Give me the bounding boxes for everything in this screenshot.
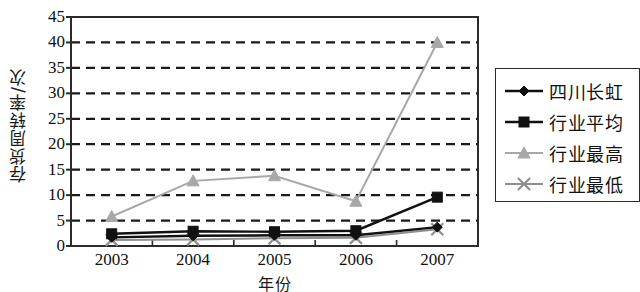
square-marker-icon — [503, 112, 545, 132]
x-tick-label: 2003 — [95, 250, 129, 270]
diamond-marker-icon — [432, 222, 442, 232]
chart-legend: 四川长虹行业平均行业最高行业最低 — [495, 68, 640, 202]
legend-marker — [503, 112, 545, 132]
legend-item-3[interactable]: 行业最高 — [503, 137, 639, 168]
legend-item-label: 行业最高 — [549, 140, 623, 166]
legend-item-label: 行业最低 — [549, 171, 623, 197]
x-tick-label: 2006 — [339, 250, 373, 270]
triangle-marker-icon — [106, 210, 118, 221]
gridlines — [71, 42, 478, 220]
triangle-marker-icon — [503, 143, 545, 163]
square-marker-icon — [432, 192, 442, 202]
legend-item-4[interactable]: 行业最低 — [503, 168, 639, 199]
x-tick-label: 2007 — [420, 250, 454, 270]
x-tick-label: 2004 — [176, 250, 210, 270]
x-tick-label: 2005 — [258, 250, 292, 270]
legend-item-label: 行业平均 — [549, 109, 623, 135]
diamond-marker-icon — [503, 81, 545, 101]
diamond-marker-icon — [519, 86, 529, 96]
legend-item-2[interactable]: 行业平均 — [503, 106, 639, 137]
legend-item-1[interactable]: 四川长虹 — [503, 75, 639, 106]
series-3 — [106, 36, 444, 221]
legend-marker — [503, 143, 545, 163]
legend-marker — [503, 81, 545, 101]
x-axis-title-label: 年份 — [258, 271, 292, 292]
cross-marker-icon — [503, 174, 545, 194]
legend-item-label: 四川长虹 — [549, 78, 623, 104]
square-marker-icon — [519, 117, 529, 127]
legend-marker — [503, 174, 545, 194]
plot-frame — [71, 17, 478, 246]
